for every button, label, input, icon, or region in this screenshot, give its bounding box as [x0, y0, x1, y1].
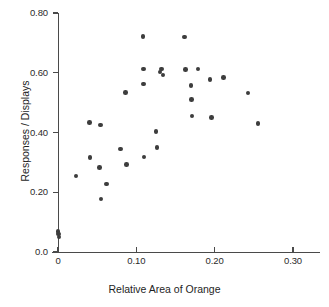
- x-tick-label: 0.10: [111, 255, 161, 266]
- data-point: [190, 114, 195, 119]
- x-tick-label: 0.30: [268, 255, 318, 266]
- scatter-plot-figure: 0.00.200.400.600.80 00.100.200.30 Relati…: [0, 0, 329, 307]
- data-point: [104, 182, 109, 187]
- data-point: [155, 145, 160, 150]
- plot-data-area: [58, 13, 308, 252]
- data-point: [123, 90, 128, 95]
- data-point: [57, 235, 62, 240]
- data-point: [182, 35, 187, 40]
- data-point: [221, 75, 226, 80]
- y-tick-label: 0.40: [30, 127, 48, 138]
- y-tick-label: 0.60: [30, 67, 48, 78]
- data-point: [208, 77, 213, 82]
- x-tick-label: 0: [33, 255, 83, 266]
- data-point: [124, 162, 129, 167]
- x-axis-title: Relative Area of Orange: [0, 283, 329, 295]
- data-point: [141, 34, 146, 39]
- data-point: [118, 147, 123, 152]
- y-tick-label: 0.20: [30, 186, 48, 197]
- data-point: [256, 121, 261, 126]
- data-point: [189, 97, 194, 102]
- data-point: [154, 129, 159, 134]
- data-point: [98, 123, 103, 128]
- data-point: [183, 67, 188, 72]
- data-point: [246, 91, 251, 96]
- y-axis-title: Responses / Displays: [19, 46, 31, 216]
- data-point: [189, 83, 194, 88]
- y-tick-label: 0.80: [30, 7, 48, 18]
- data-point: [88, 155, 93, 160]
- data-point: [159, 67, 164, 72]
- data-point: [209, 115, 214, 120]
- data-point: [74, 174, 79, 179]
- data-point: [142, 155, 147, 160]
- data-point: [141, 82, 146, 87]
- data-point: [161, 73, 166, 78]
- data-point: [141, 67, 146, 72]
- x-tick-label: 0.20: [190, 255, 240, 266]
- data-point: [97, 165, 102, 170]
- data-point: [196, 67, 201, 72]
- data-point: [87, 120, 92, 125]
- data-point: [99, 197, 104, 202]
